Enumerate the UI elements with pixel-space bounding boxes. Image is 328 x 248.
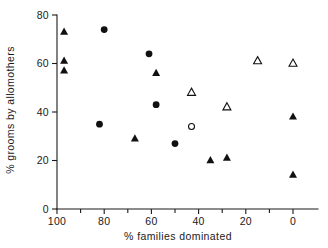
point-filled-triangle [289, 171, 297, 178]
axes [57, 15, 318, 209]
y-tick-label-60: 60 [37, 57, 49, 69]
y-tick-label-20: 20 [37, 154, 49, 166]
data-points [60, 26, 297, 178]
point-open-triangle [223, 103, 231, 110]
point-filled-circle [172, 140, 179, 147]
plot-canvas: 100806040200 020406080 % families domina… [0, 0, 328, 248]
point-filled-circle [96, 121, 103, 128]
point-filled-triangle [60, 28, 68, 35]
y-tick-label-80: 80 [37, 9, 49, 21]
y-axis-label: % grooms by allomothers [4, 46, 16, 174]
point-filled-triangle [60, 66, 68, 73]
point-open-triangle [188, 88, 196, 95]
x-tick-label-80: 80 [98, 215, 110, 227]
tick-marks [52, 15, 293, 214]
point-open-triangle [289, 59, 297, 66]
y-tick-label-40: 40 [37, 106, 49, 118]
x-tick-label-100: 100 [48, 215, 66, 227]
point-filled-triangle [152, 69, 160, 76]
point-filled-circle [146, 50, 153, 57]
point-filled-triangle [60, 57, 68, 64]
point-filled-triangle [131, 134, 139, 141]
x-tick-label-60: 60 [145, 215, 157, 227]
point-filled-triangle [223, 154, 231, 161]
y-tick-labels: 020406080 [37, 9, 49, 215]
point-open-triangle [254, 57, 262, 64]
point-filled-circle [101, 26, 108, 33]
point-filled-triangle [206, 156, 214, 163]
y-tick-label-0: 0 [43, 203, 49, 215]
point-filled-circle [153, 101, 160, 108]
x-tick-label-40: 40 [192, 215, 204, 227]
x-tick-labels: 100806040200 [48, 215, 296, 227]
x-tick-label-20: 20 [240, 215, 252, 227]
point-filled-triangle [289, 112, 297, 119]
x-tick-label-0: 0 [290, 215, 296, 227]
x-axis-label: % families dominated [124, 230, 232, 242]
point-open-circle [189, 124, 195, 130]
scatter-plot-figure: 100806040200 020406080 % families domina… [0, 0, 328, 248]
